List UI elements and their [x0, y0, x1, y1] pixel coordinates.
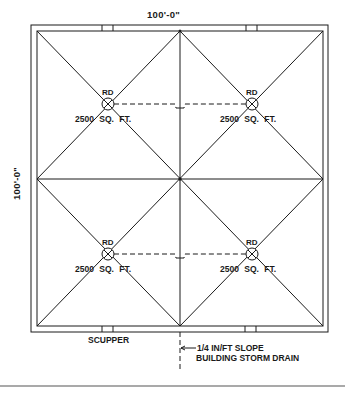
drain-area-label: 2500 SQ. FT.: [220, 265, 276, 274]
roof-plan-drawing: [0, 0, 345, 393]
roof-drain-label: RD: [102, 89, 114, 97]
roof-drain-label: RD: [102, 239, 114, 247]
drain-area-label: 2500 SQ. FT.: [75, 265, 131, 274]
roof-drain-label: RD: [246, 89, 258, 97]
storm-drain-label: BUILDING STORM DRAIN: [196, 354, 299, 363]
roof-drain-label: RD: [246, 239, 258, 247]
scupper-label: SCUPPER: [88, 336, 129, 345]
width-dimension: 100'-0": [147, 10, 180, 20]
drain-area-label: 2500 SQ. FT.: [220, 115, 276, 124]
drain-area-label: 2500 SQ. FT.: [75, 115, 131, 124]
height-dimension: 100'-0": [12, 167, 22, 200]
slope-label: 1/4 IN/FT SLOPE: [197, 344, 264, 353]
